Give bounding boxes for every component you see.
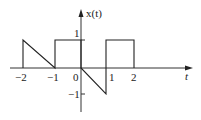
x-axis-arrow-icon xyxy=(79,9,84,17)
xtick-label-minus1: −1 xyxy=(47,71,59,83)
signal-waveform xyxy=(23,40,134,94)
xtick-label-0: 0 xyxy=(73,71,79,83)
plot-canvas: x(t) t −2 −1 0 1 2 1 −1 xyxy=(0,0,201,120)
y-axis-label: x(t) xyxy=(86,7,102,20)
xtick-label-1: 1 xyxy=(109,71,115,83)
xtick-label-minus2: −2 xyxy=(15,71,27,83)
ytick-label-minus1: −1 xyxy=(68,88,80,100)
signal-plot: x(t) t −2 −1 0 1 2 1 −1 xyxy=(0,0,201,120)
xtick-label-2: 2 xyxy=(131,71,137,83)
t-axis-label: t xyxy=(185,70,189,82)
ytick-label-1: 1 xyxy=(74,27,80,39)
